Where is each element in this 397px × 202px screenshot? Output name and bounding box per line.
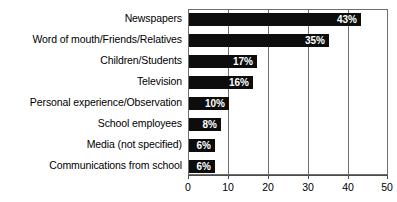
bar-value-label: 43% [337, 13, 357, 26]
x-tick-mark [348, 175, 349, 179]
x-tick-label: 40 [342, 181, 354, 193]
category-label: Media (not specified) [87, 138, 182, 151]
x-tick-mark [228, 175, 229, 179]
bar-newspapers: 43% [189, 13, 361, 26]
category-label: Communications from school [49, 159, 182, 172]
category-label: School employees [98, 117, 182, 130]
category-label: Children/Students [100, 54, 182, 67]
x-tick-mark [308, 175, 309, 179]
x-tick-label: 30 [302, 181, 314, 193]
bar-children-students: 17% [189, 55, 257, 68]
x-tick-label: 10 [222, 181, 234, 193]
bar-value-label: 35% [305, 34, 325, 47]
bars-layer: 43% 35% 17% 16% 10% 8% 6% 6% [189, 10, 387, 174]
category-label: Word of mouth/Friends/Relatives [32, 33, 182, 46]
x-axis: 0 10 20 30 40 50 [188, 175, 388, 176]
bar-value-label: 16% [229, 76, 249, 89]
x-tick-label: 0 [185, 181, 191, 193]
bar-word-of-mouth: 35% [189, 34, 329, 47]
bar-media-not-specified: 6% [189, 139, 215, 152]
bar-value-label: 6% [197, 160, 211, 173]
bar-chart: Newspapers Word of mouth/Friends/Relativ… [0, 0, 397, 202]
bar-school-employees: 8% [189, 118, 221, 131]
bar-personal-experience: 10% [189, 97, 229, 110]
category-axis-labels: Newspapers Word of mouth/Friends/Relativ… [0, 12, 185, 172]
category-label: Television [137, 75, 182, 88]
x-tick-mark [387, 175, 388, 179]
bar-value-label: 10% [205, 97, 225, 110]
x-tick-mark [268, 175, 269, 179]
plot-area: 43% 35% 17% 16% 10% 8% 6% 6% [188, 9, 388, 175]
bar-television: 16% [189, 76, 253, 89]
category-label: Personal experience/Observation [30, 96, 182, 109]
category-label: Newspapers [125, 12, 182, 25]
x-tick-label: 50 [381, 181, 393, 193]
bar-value-label: 8% [203, 118, 217, 131]
bar-value-label: 17% [233, 55, 253, 68]
bar-value-label: 6% [197, 139, 211, 152]
bar-communications-from-school: 6% [189, 160, 215, 173]
x-tick-label: 20 [262, 181, 274, 193]
x-tick-mark [188, 175, 189, 179]
